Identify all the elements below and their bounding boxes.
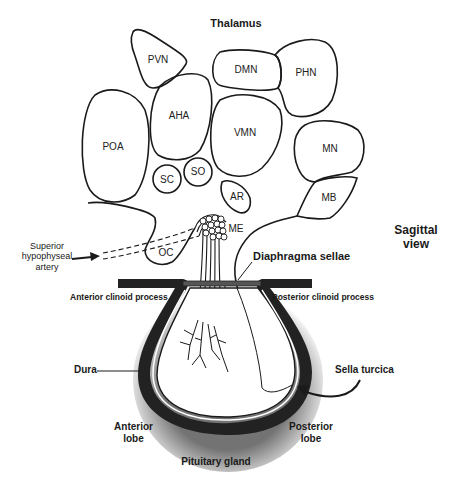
nucleus-ar: AR [230, 191, 244, 203]
nucleus-aha: AHA [169, 110, 190, 122]
posterior-clinoid-process-label: Posterior clinoid process [272, 293, 374, 303]
capillary-loops [200, 215, 227, 240]
nucleus-phn: PHN [295, 67, 316, 79]
artery-label-line-2: hypophyseal [18, 251, 76, 261]
nucleus-dmn: DMN [235, 64, 258, 76]
thalamus-label: Thalamus [210, 17, 261, 30]
nucleus-pvn: PVN [148, 54, 169, 66]
anterior-lobe-line-1: Anterior [111, 421, 156, 433]
anterior-lobe-line-2: lobe [111, 433, 156, 445]
pituitary-gland-label: Pituitary gland [181, 456, 250, 468]
sella-turcica-label: Sella turcica [335, 364, 394, 376]
nucleus-mb: MB [322, 192, 337, 204]
dura-label: Dura [74, 364, 97, 376]
posterior-lobe-label: Posterior lobe [288, 421, 334, 444]
pituitary-diagram: Thalamus PVN DMN PHN AHA POA VMN MN SC S… [0, 0, 473, 481]
optic-chiasm-label: OC [159, 247, 174, 259]
nucleus-sc: SC [160, 174, 174, 186]
diaphragma-sellae-bar [183, 281, 261, 286]
artery-label-line-1: Superior [18, 241, 76, 251]
posterior-lobe-line-2: lobe [288, 433, 334, 445]
sagittal-view-label: Sagittal view [391, 223, 441, 252]
nucleus-mn: MN [322, 143, 338, 155]
sagittal-view-line-1: Sagittal [391, 223, 441, 237]
superior-hypophyseal-artery-label: Superior hypophyseal artery [18, 241, 76, 272]
hypothalamic-floor [88, 202, 195, 264]
nucleus-so: SO [191, 166, 205, 178]
artery-dashed [103, 228, 199, 259]
nucleus-poa: POA [102, 141, 123, 153]
sagittal-view-line-2: view [391, 237, 441, 251]
artery-arrow [72, 252, 100, 261]
anterior-clinoid-process-label: Anterior clinoid process [70, 293, 168, 303]
anterior-lobe-label: Anterior lobe [111, 421, 156, 444]
posterior-lobe-line-1: Posterior [288, 421, 334, 433]
nucleus-vmn: VMN [234, 127, 256, 139]
diaphragma-leader [238, 262, 252, 280]
median-eminence-label: ME [229, 223, 244, 235]
artery-label-line-3: artery [18, 262, 76, 272]
diaphragma-sellae-label: Diaphragma sellae [253, 250, 350, 263]
